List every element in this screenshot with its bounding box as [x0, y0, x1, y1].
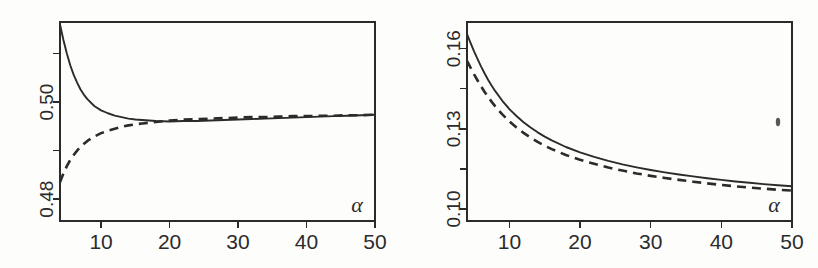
chart-panel-right: 0.100.130.161020304050α: [410, 0, 818, 268]
x-axis-tick-label: 20: [158, 230, 181, 253]
x-axis-tick-label: 20: [568, 230, 591, 253]
series-line-solid: [60, 24, 375, 121]
scan-speck-artifact: [776, 118, 780, 126]
x-axis-tick-label: 40: [295, 230, 318, 253]
chart-panel-left: 0.480.501020304050α: [0, 0, 410, 268]
x-axis-tick-label: 30: [639, 230, 662, 253]
x-axis-tick-label: 10: [89, 230, 112, 253]
x-axis-tick-label: 50: [363, 230, 386, 253]
y-axis-tick-label: 0.16: [444, 30, 465, 67]
x-axis-tick-label: 10: [498, 230, 521, 253]
x-axis-tick-label: 50: [780, 230, 803, 253]
y-axis-tick-label: 0.13: [444, 110, 465, 147]
x-axis-label-alpha: α: [351, 192, 363, 217]
y-axis-tick-label: 0.10: [444, 190, 465, 227]
y-axis-tick-label: 0.48: [37, 181, 58, 218]
series-line-dashed: [60, 115, 375, 182]
figure-container: 0.480.501020304050α 0.100.130.1610203040…: [0, 0, 818, 268]
plot-frame: [467, 22, 792, 221]
series-line-dashed: [467, 61, 792, 191]
right-plot-svg: 0.100.130.161020304050α: [410, 0, 818, 268]
left-plot-svg: 0.480.501020304050α: [0, 0, 410, 268]
plot-frame: [60, 22, 375, 221]
x-axis-label-alpha: α: [768, 192, 780, 217]
x-axis-tick-label: 40: [710, 230, 733, 253]
x-axis-tick-label: 30: [226, 230, 249, 253]
y-axis-tick-label: 0.50: [37, 84, 58, 121]
series-line-solid: [467, 34, 792, 186]
